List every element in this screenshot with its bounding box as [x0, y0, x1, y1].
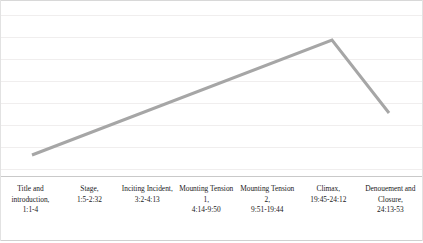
stage-label-2: Inciting Incident,3:2-4:13 [119, 177, 176, 205]
stage-label-4: Mounting Tension 2,9:51-19:44 [237, 177, 298, 216]
stage-label-0: Title and introduction,1:1-4 [1, 177, 60, 216]
stage-name-5: Climax, [300, 184, 357, 195]
stage-timestamp-6: 24:13-53 [361, 205, 420, 216]
story-arc-chart-figure: Title and introduction,1:1-4Stage,1:5-2:… [0, 0, 423, 243]
stage-name-3: Mounting Tension 1, [178, 184, 235, 205]
figure-border-bottom [0, 240, 423, 241]
stage-timestamp-5: 19:45-24:12 [300, 195, 357, 206]
stage-name-1: Stage, [62, 184, 117, 195]
stage-name-6: Denouement and Closure, [361, 184, 420, 205]
stage-timestamp-3: 4:14-9:50 [178, 205, 235, 216]
stage-name-2: Inciting Incident, [121, 184, 174, 195]
dramatic-tension-line-series [1, 1, 422, 176]
stage-label-strip: Title and introduction,1:1-4Stage,1:5-2:… [1, 177, 422, 240]
stage-timestamp-2: 3:2-4:13 [121, 195, 174, 206]
stage-label-6: Denouement and Closure,24:13-53 [359, 177, 422, 216]
stage-label-5: Climax,19:45-24:12 [298, 177, 359, 205]
story-arc-polyline [32, 40, 389, 155]
stage-timestamp-4: 9:51-19:44 [239, 205, 296, 216]
stage-timestamp-0: 1:1-4 [3, 205, 58, 216]
stage-name-0: Title and introduction, [3, 184, 58, 205]
stage-name-4: Mounting Tension 2, [239, 184, 296, 205]
plot-area [1, 1, 422, 176]
stage-label-1: Stage,1:5-2:32 [60, 177, 119, 205]
stage-label-3: Mounting Tension 1,4:14-9:50 [176, 177, 237, 216]
stage-timestamp-1: 1:5-2:32 [62, 195, 117, 206]
